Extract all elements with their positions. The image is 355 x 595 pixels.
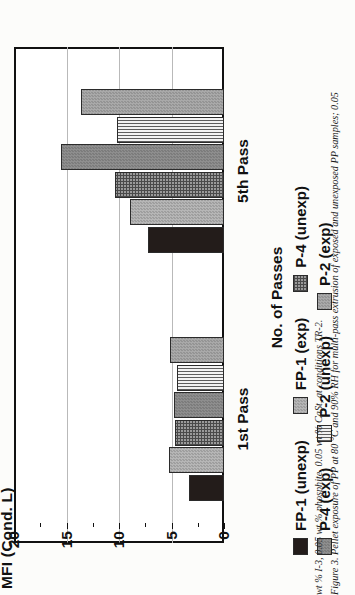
bar [81,89,224,115]
scanned-figure-page: MFI (Cond. L) 05101520 1st Pass5th Pass … [0,0,355,595]
y-tick-minor [145,523,146,527]
legend-label: P-4 (unexp) [292,186,309,268]
caption-line-2: wt % I-3, 0.05 wt % phosphite, 0.05 wt %… [313,0,329,595]
rotated-figure-wrapper: MFI (Cond. L) 05101520 1st Pass5th Pass … [0,0,355,595]
caption-line-2-wrapper: wt % I-3, 0.05 wt % phosphite, 0.05 wt %… [313,0,329,595]
plot-area [14,47,224,543]
y-tick-label: 0 [215,531,233,557]
legend-swatch-icon [293,275,308,292]
bar [189,475,224,501]
bar [117,117,224,143]
y-tick-mark [14,523,15,529]
category-label: 5th Pass [234,139,252,203]
y-tick-minor [93,523,94,527]
legend-label: FP-1 (unexp) [292,440,309,531]
bar [175,420,224,446]
legend-swatch-icon [293,397,308,414]
bar [177,365,224,391]
y-tick-label: 10 [110,531,128,557]
legend-item[interactable]: FP-1 (exp) [292,318,309,415]
bar [148,227,224,253]
bar [130,199,225,225]
y-tick-label: 5 [163,531,181,557]
y-tick-mark [119,523,120,529]
y-tick-minor [40,523,41,527]
bar-group [14,89,224,253]
caption-line-1: Figure 3. Pellet exposure of PP at 80 °C… [329,0,353,595]
legend-label: FP-1 (exp) [292,318,309,391]
category-label: 1st Pass [234,388,252,451]
bar-group [14,337,224,501]
bar [115,172,224,198]
y-tick-label: 15 [58,531,76,557]
bar [170,337,224,363]
y-tick-mark [172,523,173,529]
y-tick-mark [67,523,68,529]
x-axis-title: No. of Passes [268,0,286,595]
y-tick-minor [198,523,199,527]
y-tick-mark [224,523,225,529]
figure: MFI (Cond. L) 05101520 1st Pass5th Pass … [0,0,355,595]
legend-item[interactable]: FP-1 (unexp) [292,440,309,555]
legend-item[interactable]: P-4 (unexp) [292,186,309,292]
bar [61,144,224,170]
bar [174,392,224,418]
caption-line-1-wrapper: Figure 3. Pellet exposure of PP at 80 °C… [329,0,353,595]
y-tick-label: 20 [5,531,23,557]
bar [169,447,224,473]
legend-row-1: FP-1 (unexp)FP-1 (exp)P-4 (unexp) [292,35,309,555]
legend-swatch-icon [293,538,308,555]
